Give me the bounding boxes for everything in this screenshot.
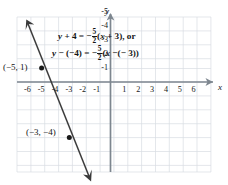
data-point-marker xyxy=(39,66,44,71)
data-point-marker xyxy=(67,135,72,140)
coordinate-plane-figure: y + 4 = −52(x + 3), or y − (−4) = −52(x … xyxy=(0,0,228,185)
plot-canvas xyxy=(0,0,228,185)
